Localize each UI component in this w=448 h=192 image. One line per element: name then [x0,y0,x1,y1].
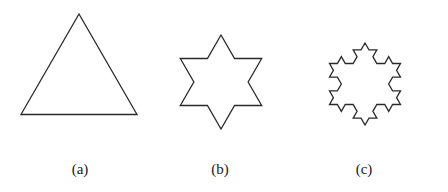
panel-b-label: (b) [211,161,229,178]
panel-a-triangle [21,14,137,115]
panel-c-label: (c) [356,161,373,178]
panel-c-koch-snowflake [329,43,400,125]
panel-a-label: (a) [72,161,89,178]
panel-b-star [180,35,261,129]
